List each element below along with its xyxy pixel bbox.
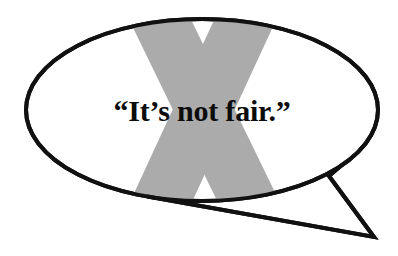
- speech-bubble-graphic: “It’s not fair.”: [0, 0, 398, 256]
- illustration-canvas: “It’s not fair.”: [0, 0, 398, 256]
- quote-caption: “It’s not fair.”: [113, 94, 290, 127]
